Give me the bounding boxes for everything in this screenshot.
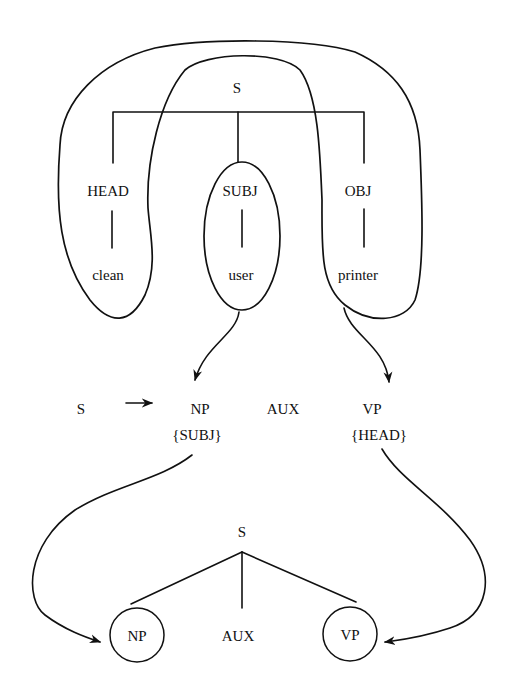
tree-leaf-aux: AUX [222,628,255,644]
mapping-arrows-upper [195,308,389,382]
rule-lhs: S [77,401,85,417]
arrow-vp-to-tree-vp [382,449,485,642]
tree-edge-np [131,552,242,604]
rule-rhs-np: NP [190,401,209,417]
tree-leaf-vp: VP [340,627,359,643]
fs-feature-value-printer: printer [338,267,378,283]
rule-rhs-np-annotation: {SUBJ} [172,427,221,443]
tree-edge-vp [242,552,356,602]
phrase-structure-rule: S NP {SUBJ} AUX VP {HEAD} [77,401,407,443]
arrow-np-to-tree-np [33,455,192,642]
fs-feature-label-head: HEAD [87,183,129,199]
fs-feature-value-clean: clean [92,267,124,283]
fs-feature-label-obj: OBJ [345,183,372,199]
rule-rhs-vp-annotation: {HEAD} [351,427,407,443]
functional-structure: S HEAD SUBJ OBJ clean user printer [58,41,422,318]
rule-rhs-aux: AUX [267,401,300,417]
phrase-structure-tree: S NP AUX VP [110,524,377,662]
mapping-arrows-lower [33,449,486,642]
arrow-subj-to-np [195,312,239,380]
fs-root-label: S [233,80,241,96]
fs-feature-value-user: user [229,267,254,283]
tree-leaf-np: NP [127,628,146,644]
diagram-canvas: S HEAD SUBJ OBJ clean user printer S NP … [0,0,514,690]
fs-feature-label-subj: SUBJ [222,183,257,199]
rule-rhs-vp: VP [362,401,381,417]
tree-root-label: S [238,524,246,540]
